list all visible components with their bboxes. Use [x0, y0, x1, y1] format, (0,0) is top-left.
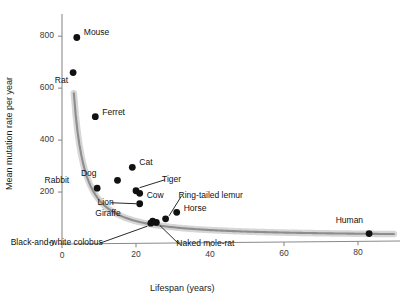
x-axis-title: Lifespan (years)	[150, 283, 215, 293]
data-point	[129, 164, 136, 171]
y-tick-label: 800	[0, 30, 54, 40]
data-point	[73, 34, 80, 41]
data-point-label: Mouse	[84, 27, 110, 37]
data-point	[136, 190, 143, 197]
data-point-label: Naked mole-rat	[176, 238, 234, 248]
x-tick-label: 20	[116, 249, 156, 259]
mutation-rate-scatter-chart: Mean mutation rate per year Lifespan (ye…	[0, 0, 409, 304]
data-point-label: Ring-tailed lemur	[179, 190, 243, 200]
data-point	[114, 177, 121, 184]
data-point-label: Rabbit	[0, 175, 69, 185]
data-point	[136, 200, 143, 207]
data-point-label: Cat	[139, 157, 152, 167]
x-tick-label: 0	[42, 250, 82, 260]
data-point-label: Black-and-white colobus	[0, 237, 103, 247]
data-point	[70, 69, 77, 76]
leader-line	[111, 203, 137, 204]
data-point-label: Horse	[184, 203, 207, 213]
data-point	[94, 185, 101, 192]
data-point-label: Ferret	[102, 107, 125, 117]
x-tick-label: 40	[190, 249, 230, 259]
data-point-label: Lion	[0, 197, 114, 207]
data-point-label: Rat	[0, 75, 68, 85]
data-point-label: Cow	[147, 190, 164, 200]
data-point	[366, 230, 373, 237]
x-tick-label: 80	[338, 247, 378, 257]
data-point-label: Human	[0, 215, 363, 225]
y-tick-label: 400	[0, 134, 54, 144]
data-point-label: Tiger	[162, 174, 181, 184]
x-tick-label: 60	[264, 248, 304, 258]
data-points	[70, 34, 373, 237]
leader-line	[100, 226, 148, 243]
y-tick-label: 200	[0, 186, 54, 196]
data-point	[92, 113, 99, 120]
